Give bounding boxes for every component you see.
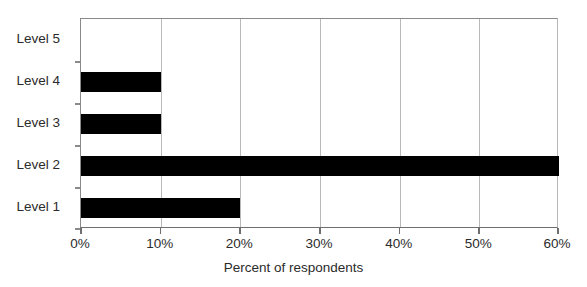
- x-axis-tick-40: [399, 228, 401, 234]
- x-axis-tick-10: [160, 228, 162, 234]
- x-axis-title: Percent of respondents: [0, 260, 587, 276]
- x-axis-tick-30: [319, 228, 321, 234]
- bar-track-level-3: [81, 103, 557, 145]
- x-axis-ticklabel-40: 40%: [385, 236, 412, 252]
- x-axis-ticklabel-60: 60%: [543, 236, 570, 252]
- y-axis-label-level-2: Level 2: [0, 157, 60, 173]
- x-axis-ticklabel-30: 30%: [305, 236, 332, 252]
- bar-track-level-2: [81, 145, 557, 187]
- bar-level-1: [81, 198, 240, 218]
- bars-layer: [81, 19, 557, 227]
- bar-track-level-4: [81, 61, 557, 103]
- x-axis: 0% 10% 20% 30% 40% 50% 60%: [80, 228, 558, 258]
- x-axis-ticklabel-10: 10%: [146, 236, 173, 252]
- x-axis-ticklabel-50: 50%: [465, 236, 492, 252]
- y-axis-label-level-5: Level 5: [0, 31, 60, 47]
- x-axis-tick-0: [80, 228, 82, 234]
- x-axis-ticklabel-20: 20%: [226, 236, 253, 252]
- bar-track-level-5: [81, 19, 557, 61]
- bar-track-level-1: [81, 187, 557, 229]
- y-axis-label-level-4: Level 4: [0, 73, 60, 89]
- horizontal-bar-chart: Level 5 Level 4 Level 3 Level 2 Level 1: [0, 0, 587, 287]
- y-axis-label-level-3: Level 3: [0, 115, 60, 131]
- x-axis-ticklabel-0: 0%: [70, 236, 90, 252]
- bar-level-3: [81, 114, 161, 134]
- plot-area: [80, 18, 558, 228]
- bar-level-4: [81, 72, 161, 92]
- x-axis-tick-60: [557, 228, 559, 234]
- y-axis-labels: Level 5 Level 4 Level 3 Level 2 Level 1: [0, 18, 70, 228]
- x-axis-tick-20: [239, 228, 241, 234]
- bar-level-2: [81, 156, 559, 176]
- y-axis-label-level-1: Level 1: [0, 199, 60, 215]
- x-axis-tick-50: [478, 228, 480, 234]
